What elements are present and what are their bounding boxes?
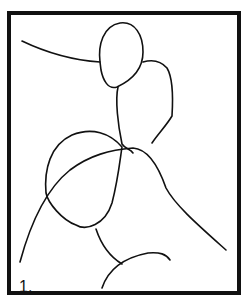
figure-number-label: 1. bbox=[19, 279, 32, 295]
torso-right bbox=[143, 61, 172, 143]
upper-oval bbox=[100, 23, 143, 88]
lower-stem bbox=[96, 229, 122, 264]
lower-oval bbox=[46, 131, 122, 227]
bottom-arc bbox=[102, 253, 170, 288]
curve-top-left bbox=[22, 41, 100, 62]
line-drawing bbox=[0, 0, 250, 304]
